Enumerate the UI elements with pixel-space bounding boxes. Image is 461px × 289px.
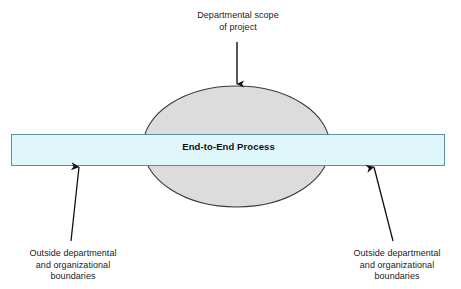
arrow-to-bar-right [374,167,393,241]
annotation-outside-boundaries-left: Outside departmental and organizational … [8,248,138,283]
end-to-end-process-label: End-to-End Process [12,141,445,152]
arrow-to-bar-left [71,167,79,241]
diagram-canvas: End-to-End Process Departmental scope of… [0,0,461,289]
annotation-departmental-scope: Departmental scope of project [168,10,308,33]
annotation-outside-boundaries-right: Outside departmental and organizational … [332,248,461,283]
